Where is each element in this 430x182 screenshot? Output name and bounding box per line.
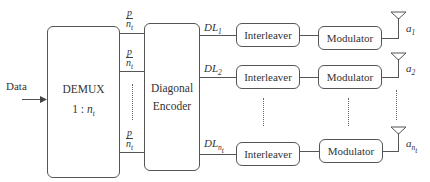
antenna-feed-h-1 [382, 38, 398, 39]
antenna-icon-nt [391, 127, 406, 135]
arrow-head-icon [40, 96, 47, 103]
stream-line-1 [120, 33, 144, 34]
antenna-feed-v-2 [398, 59, 399, 78]
modulator-block-nt: Modulator [319, 139, 383, 163]
link-line-nt [300, 151, 319, 152]
antenna-feed-h-nt [383, 151, 398, 152]
stream-ellipsis [132, 84, 133, 120]
stream-fraction-nt: pnt [126, 128, 133, 153]
interleaver-ellipsis [263, 98, 264, 126]
modulator-ellipsis [348, 98, 349, 126]
stream-fraction-2: pnt [126, 47, 133, 72]
interleaver-block-nt: Interleaver [236, 142, 300, 166]
encoder-line1: Diagonal [151, 79, 193, 97]
diagonal-encoder-block: Diagonal Encoder [144, 23, 200, 171]
antenna-ellipsis [396, 90, 397, 120]
demux-ratio: 1 : nt [72, 99, 95, 124]
antenna-label-2: a2 [406, 62, 415, 77]
antenna-label-1: a1 [406, 22, 415, 37]
antenna-feed-v-1 [398, 18, 399, 39]
interleaver-block-2: Interleaver [236, 65, 300, 89]
dl-label-nt: DLnt [204, 137, 224, 155]
antenna-icon-2 [391, 53, 406, 61]
antenna-feed-v-nt [398, 133, 399, 152]
demux-title: DEMUX [62, 79, 104, 99]
modulator-block-2: Modulator [318, 65, 382, 89]
antenna-feed-h-2 [382, 77, 398, 78]
encoder-line2: Encoder [153, 97, 191, 115]
dl-line-1 [200, 35, 236, 36]
modulator-block-1: Modulator [318, 26, 382, 50]
dl-line-nt [200, 154, 236, 155]
dl-label-2: DL2 [204, 62, 222, 77]
data-label: Data [6, 80, 27, 92]
antenna-icon-1 [391, 12, 406, 20]
dl-label-1: DL1 [204, 21, 222, 36]
interleaver-block-1: Interleaver [236, 23, 300, 47]
dl-line-2 [200, 77, 236, 78]
demux-block: DEMUX 1 : nt [47, 26, 120, 178]
link-line-1 [300, 35, 318, 36]
antenna-label-nt: ant [406, 137, 417, 155]
stream-fraction-1: pnt [126, 8, 133, 33]
link-line-2 [300, 77, 318, 78]
